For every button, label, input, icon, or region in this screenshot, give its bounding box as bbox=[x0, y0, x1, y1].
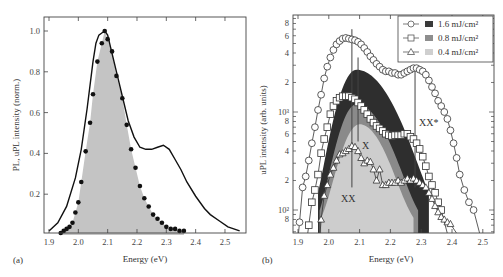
annotation-x: X bbox=[362, 140, 370, 151]
svg-text:2: 2 bbox=[285, 77, 289, 87]
svg-text:2.0: 2.0 bbox=[323, 237, 334, 247]
svg-text:2.0: 2.0 bbox=[73, 237, 84, 247]
svg-text:8: 8 bbox=[285, 116, 289, 126]
svg-text:2.1: 2.1 bbox=[102, 237, 113, 247]
svg-text:2.4: 2.4 bbox=[190, 237, 201, 247]
legend-label-1: 1.6 mJ/cm² bbox=[438, 19, 478, 29]
legend-circle-icon bbox=[408, 21, 414, 27]
legend-swatch-mid bbox=[425, 35, 433, 41]
svg-text:0.8: 0.8 bbox=[29, 67, 40, 77]
annotation-xx: XX bbox=[341, 193, 356, 204]
svg-text:0.2: 0.2 bbox=[29, 189, 40, 199]
annotation-xx-star: XX* bbox=[419, 117, 438, 128]
svg-text:2.4: 2.4 bbox=[447, 237, 458, 247]
y-axis-label-a: PL, uPL intensity (norm.) bbox=[11, 79, 21, 171]
y-axis-label-b: uPL intensity (arb. units) bbox=[258, 85, 268, 175]
svg-text:2.3: 2.3 bbox=[416, 237, 427, 247]
svg-text:4: 4 bbox=[285, 48, 290, 58]
legend-swatch-dark bbox=[425, 21, 433, 27]
svg-text:10³: 10³ bbox=[278, 107, 290, 117]
svg-text:4: 4 bbox=[285, 146, 290, 156]
legend-label-2: 0.8 mJ/cm² bbox=[438, 33, 478, 43]
svg-text:6: 6 bbox=[285, 129, 289, 139]
legend-label-3: 0.4 mJ/cm² bbox=[438, 47, 478, 57]
svg-text:2.5: 2.5 bbox=[477, 237, 488, 247]
svg-text:2.3: 2.3 bbox=[161, 237, 172, 247]
svg-text:1.0: 1.0 bbox=[29, 26, 40, 36]
x-axis-label-b: Energy (eV) bbox=[369, 254, 414, 264]
svg-text:2.5: 2.5 bbox=[220, 237, 231, 247]
svg-text:0.6: 0.6 bbox=[29, 108, 40, 118]
svg-text:2.1: 2.1 bbox=[354, 237, 365, 247]
svg-text:10²: 10² bbox=[278, 205, 290, 215]
svg-text:1.9: 1.9 bbox=[293, 237, 304, 247]
svg-text:2: 2 bbox=[285, 175, 289, 185]
x-axis-label-a: Energy (eV) bbox=[123, 254, 168, 264]
svg-text:1.9: 1.9 bbox=[44, 237, 55, 247]
legend-swatch-light bbox=[425, 49, 433, 55]
svg-text:2.2: 2.2 bbox=[132, 237, 143, 247]
legend-square-icon bbox=[408, 35, 414, 41]
svg-text:0.4: 0.4 bbox=[29, 148, 40, 158]
svg-text:6: 6 bbox=[285, 31, 289, 41]
svg-text:8: 8 bbox=[285, 18, 289, 28]
panel-label-b: (b) bbox=[262, 255, 273, 265]
svg-text:2.2: 2.2 bbox=[385, 237, 396, 247]
chart-panel-a: 1.92.02.12.22.32.42.50.20.40.60.81.0 Ene… bbox=[0, 0, 503, 277]
svg-text:8: 8 bbox=[285, 214, 289, 224]
panel-label-a: (a) bbox=[13, 255, 23, 265]
legend-b: 1.6 mJ/cm² 0.8 mJ/cm² 0.4 mJ/cm² bbox=[398, 16, 493, 62]
fill-areas-b bbox=[318, 70, 429, 233]
